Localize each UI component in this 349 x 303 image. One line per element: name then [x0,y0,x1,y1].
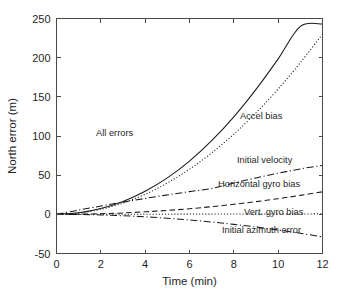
series-annotation-initial-azimuth-error: Initial azimuth error [222,225,301,235]
y-axis-title: North error (m) [6,98,18,174]
x-tick-label: 0 [53,258,59,270]
y-tick-label: 200 [32,52,50,64]
series-annotation-accel-bias: Accel bias [240,111,283,121]
series-annotation-horizontal-gyro-bias: Horizontal gyro bias [218,179,301,189]
y-tick-label: 0 [44,208,50,220]
x-tick-label: 2 [98,258,104,270]
series-annotation-all-errors: All errors [96,128,134,138]
x-tick-label: 6 [186,258,192,270]
x-tick-label: 12 [316,258,328,270]
x-tick-label: 10 [272,258,284,270]
series-annotation-vert-gyro-bias: Vert. gyro bias [244,207,304,217]
y-tick-label: 250 [32,13,50,25]
y-tick-label: 50 [38,169,50,181]
x-tick-label: 4 [142,258,148,270]
figure-canvas: 024681012-50050100150200250 All errorsAc… [0,0,349,303]
y-tick-label: 100 [32,130,50,142]
y-tick-label: -50 [35,248,51,260]
series-annotation-initial-velocity: Initial velocity [237,155,293,165]
y-tick-label: 150 [32,91,50,103]
x-axis-title: Time (min) [162,275,217,287]
north-error-line-chart: 024681012-50050100150200250 All errorsAc… [0,0,349,303]
x-tick-label: 8 [231,258,237,270]
